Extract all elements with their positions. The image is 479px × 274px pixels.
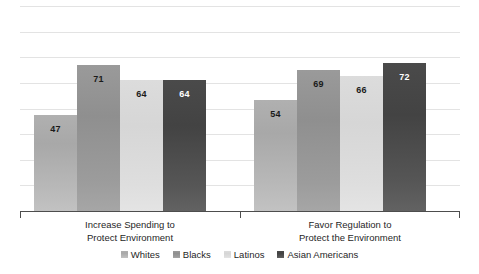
bar-asian-americans-favor-regulation[interactable]: 72 (383, 63, 426, 211)
legend-item-latinos[interactable]: Latinos (224, 249, 265, 260)
x-axis-line (20, 211, 460, 212)
bar-value-label: 72 (383, 72, 426, 82)
legend-swatch-icon (277, 251, 284, 258)
legend-swatch-icon (173, 251, 180, 258)
bar-group-favor-regulation: 54 69 66 72 (254, 6, 426, 211)
bar-value-label: 54 (254, 109, 297, 119)
legend-label: Blacks (183, 249, 211, 260)
bar-chart: 47 71 64 64 54 (0, 0, 479, 274)
axis-tick-right (459, 211, 460, 218)
legend-label: Whites (131, 249, 160, 260)
legend-item-blacks[interactable]: Blacks (173, 249, 211, 260)
bar-value-label: 66 (340, 85, 383, 95)
axis-tick-left (20, 211, 21, 218)
axis-tick-middle (240, 211, 241, 218)
bar-value-label: 69 (297, 79, 340, 89)
category-label-line1: Favor Regulation to (309, 219, 392, 230)
bar-whites-increase-spending[interactable]: 47 (34, 115, 77, 211)
category-label-line2: Protect the Environment (240, 232, 460, 245)
legend-swatch-icon (121, 251, 128, 258)
legend-item-asian-americans[interactable]: Asian Americans (277, 249, 358, 260)
bar-whites-favor-regulation[interactable]: 54 (254, 100, 297, 211)
legend-label: Latinos (234, 249, 265, 260)
bar-value-label: 47 (34, 124, 77, 134)
legend-swatch-icon (224, 251, 231, 258)
bar-latinos-favor-regulation[interactable]: 66 (340, 76, 383, 211)
bar-latinos-increase-spending[interactable]: 64 (120, 80, 163, 211)
category-label-increase-spending: Increase Spending to Protect Environment (20, 219, 240, 244)
category-label-favor-regulation: Favor Regulation to Protect the Environm… (240, 219, 460, 244)
bar-blacks-increase-spending[interactable]: 71 (77, 65, 120, 211)
bar-blacks-favor-regulation[interactable]: 69 (297, 70, 340, 211)
chart-legend: Whites Blacks Latinos Asian Americans (0, 249, 479, 260)
bar-value-label: 64 (120, 89, 163, 99)
bar-value-label: 64 (163, 89, 206, 99)
legend-item-whites[interactable]: Whites (121, 249, 160, 260)
legend-label: Asian Americans (287, 249, 358, 260)
category-label-line2: Protect Environment (20, 232, 240, 245)
category-label-line1: Increase Spending to (85, 219, 175, 230)
bar-asian-americans-increase-spending[interactable]: 64 (163, 80, 206, 211)
plot-area: 47 71 64 64 54 (20, 6, 460, 211)
bar-value-label: 71 (77, 74, 120, 84)
category-labels: Increase Spending to Protect Environment… (20, 219, 460, 249)
bars-layer: 47 71 64 64 54 (20, 6, 460, 211)
bar-group-increase-spending: 47 71 64 64 (34, 6, 206, 211)
